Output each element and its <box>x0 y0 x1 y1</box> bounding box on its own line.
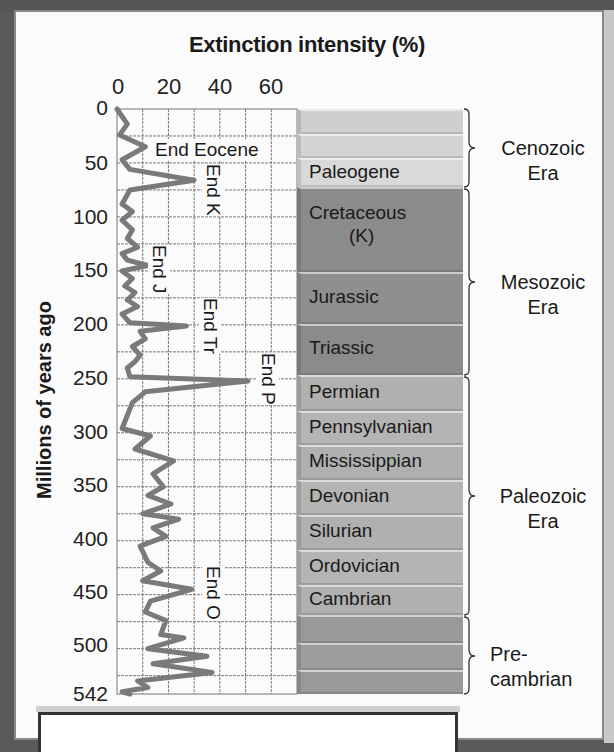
band-neogene <box>297 109 463 134</box>
band-triassic: Triassic <box>297 324 463 375</box>
band-permian: Permian <box>297 375 463 411</box>
era-label-cenozoic: Cenozoic Era <box>488 136 598 186</box>
period-label-pennsylvanian: Pennsylvanian <box>309 417 433 440</box>
period-label-jurassic: Jurassic <box>309 287 379 310</box>
brace-cenozoic-icon <box>463 108 479 188</box>
band-cretaceous: Cretaceous (K) <box>297 187 463 272</box>
era-cenozoic-line1: Cenozoic <box>488 136 598 161</box>
band-precambrian-2 <box>297 643 463 670</box>
period-label-silurian: Silurian <box>309 521 372 544</box>
label-end-k: End K <box>202 164 224 216</box>
brace-precambrian-icon <box>463 616 479 695</box>
band-precambrian-1 <box>297 615 463 643</box>
era-label-precambrian: Pre- cambrian <box>490 642 600 692</box>
band-paleogene-upper <box>297 134 463 158</box>
band-paleogene: Paleogene <box>297 158 463 187</box>
label-end-p: End P <box>257 353 279 405</box>
era-label-paleozoic: Paleozoic Era <box>488 484 598 534</box>
period-label-cretaceous-abbr: (K) <box>309 226 374 249</box>
band-precambrian-3 <box>297 670 463 694</box>
era-cenozoic-line2: Era <box>488 161 598 186</box>
band-jurassic: Jurassic <box>297 272 463 324</box>
label-end-o: End O <box>202 566 224 620</box>
era-mesozoic-line2: Era <box>488 295 598 320</box>
era-label-mesozoic: Mesozoic Era <box>488 270 598 320</box>
era-mesozoic-line1: Mesozoic <box>488 270 598 295</box>
extinction-line <box>117 109 248 694</box>
era-precambrian-line2: cambrian <box>490 667 600 692</box>
period-label-permian: Permian <box>309 382 380 405</box>
period-label-devonian: Devonian <box>309 486 389 509</box>
period-label-cambrian: Cambrian <box>309 589 391 612</box>
period-label-triassic: Triassic <box>309 338 374 361</box>
brace-mesozoic-icon <box>463 188 479 376</box>
label-end-j: End J <box>148 245 170 294</box>
period-label-ordovician: Ordovician <box>309 556 400 579</box>
period-label-mississippian: Mississippian <box>309 451 422 474</box>
era-paleozoic-line2: Era <box>488 509 598 534</box>
band-silurian: Silurian <box>297 515 463 550</box>
era-precambrian-line1: Pre- <box>490 642 600 667</box>
band-cambrian: Cambrian <box>297 585 463 615</box>
brace-paleozoic-icon <box>463 376 479 616</box>
label-end-eocene: End Eocene <box>153 139 261 161</box>
caption-box <box>38 712 458 752</box>
band-pennsylvanian: Pennsylvanian <box>297 411 463 445</box>
period-label-cretaceous: Cretaceous <box>309 203 406 226</box>
era-paleozoic-line1: Paleozoic <box>488 484 598 509</box>
band-mississippian: Mississippian <box>297 445 463 480</box>
band-ordovician: Ordovician <box>297 550 463 585</box>
band-devonian: Devonian <box>297 480 463 515</box>
label-end-tr: End Tr <box>199 298 221 354</box>
period-label-paleogene: Paleogene <box>309 162 400 185</box>
